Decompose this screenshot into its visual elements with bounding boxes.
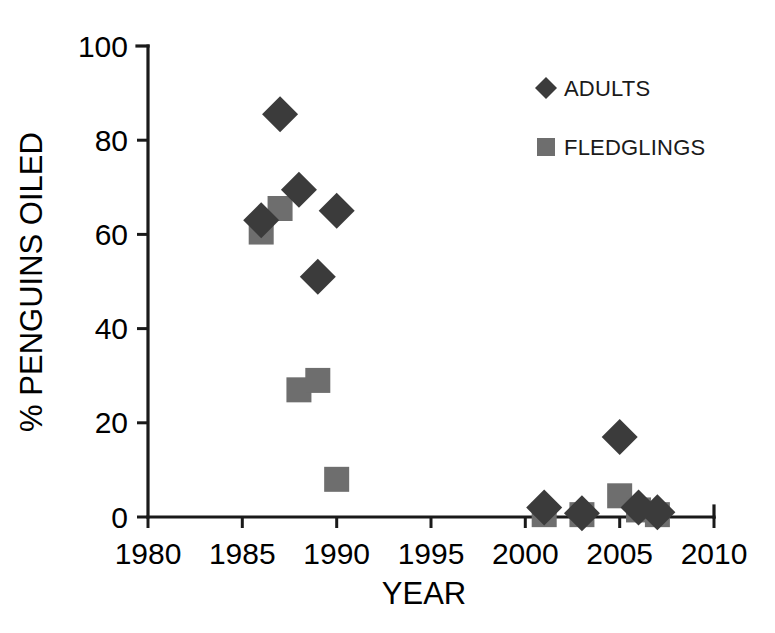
y-axis-title: % PENGUINS OILED bbox=[14, 132, 49, 432]
data-point-adults-2003 bbox=[564, 495, 600, 531]
data-point-fledglings-1990 bbox=[324, 467, 349, 492]
legend-marker-fledglings bbox=[537, 138, 555, 156]
x-tick-label-2010: 2010 bbox=[681, 537, 748, 570]
y-tick-label-40: 40 bbox=[95, 312, 128, 345]
y-axis-ticks bbox=[137, 140, 148, 517]
scatter-chart-figure: 100 80 60 40 20 0 1980 1985 1990 1995 20… bbox=[0, 0, 775, 633]
y-axis-tick-labels: 100 80 60 40 20 0 bbox=[78, 30, 128, 534]
x-tick-label-2000: 2000 bbox=[492, 537, 559, 570]
x-tick-label-2005: 2005 bbox=[586, 537, 653, 570]
y-tick-label-80: 80 bbox=[95, 124, 128, 157]
data-point-adults-2001 bbox=[526, 490, 562, 526]
data-point-adults-2005 bbox=[602, 419, 638, 455]
series-adults bbox=[243, 96, 675, 531]
legend-label-adults: ADULTS bbox=[564, 76, 650, 101]
legend-entry-fledglings[interactable]: FLEDGLINGS bbox=[537, 135, 705, 160]
y-tick-label-60: 60 bbox=[95, 218, 128, 251]
data-point-adults-1989 bbox=[300, 259, 336, 295]
y-tick-label-0: 0 bbox=[111, 501, 128, 534]
data-point-adults-1987 bbox=[262, 96, 298, 132]
y-tick-label-20: 20 bbox=[95, 406, 128, 439]
y-tick-label-100: 100 bbox=[78, 30, 128, 63]
x-axis-tick-labels: 1980 1985 1990 1995 2000 2005 2010 bbox=[115, 537, 748, 570]
chart-canvas: 100 80 60 40 20 0 1980 1985 1990 1995 20… bbox=[0, 0, 775, 633]
x-tick-label-1995: 1995 bbox=[398, 537, 465, 570]
legend-entry-adults[interactable]: ADULTS bbox=[535, 76, 650, 101]
series-fledglings bbox=[249, 196, 670, 527]
data-markers-layer bbox=[243, 96, 675, 531]
legend-marker-adults bbox=[535, 77, 557, 99]
x-tick-label-1990: 1990 bbox=[303, 537, 370, 570]
x-axis-title: YEAR bbox=[382, 576, 466, 611]
x-tick-label-1980: 1980 bbox=[115, 537, 182, 570]
x-tick-label-1985: 1985 bbox=[209, 537, 276, 570]
data-point-adults-1990 bbox=[319, 193, 355, 229]
data-point-fledglings-1989 bbox=[305, 368, 330, 393]
legend-label-fledglings: FLEDGLINGS bbox=[564, 135, 705, 160]
chart-legend: ADULTSFLEDGLINGS bbox=[535, 76, 705, 160]
